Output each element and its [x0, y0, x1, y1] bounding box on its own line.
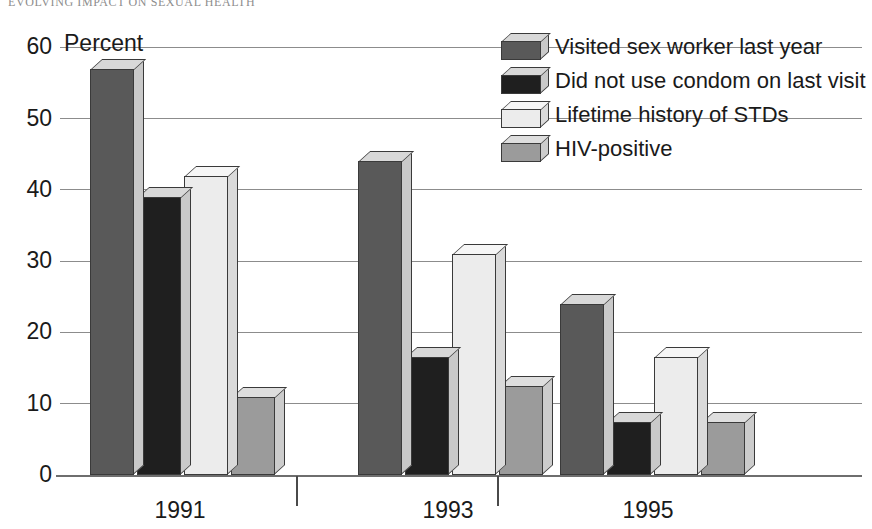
- bar-front-face: [560, 304, 604, 475]
- x-tick-label-1991: 1991: [154, 497, 205, 524]
- x-tick-label-1993: 1993: [422, 497, 473, 524]
- bar-side-face: [603, 294, 614, 475]
- legend-item-label: Visited sex worker last year: [555, 34, 822, 60]
- legend-item-label: Lifetime history of STDs: [555, 102, 789, 128]
- bar-1995-series-1: [560, 304, 604, 475]
- bar-front-face: [358, 161, 402, 475]
- y-tick-label: 20: [6, 320, 52, 343]
- bar-1993-series-1: [358, 161, 402, 475]
- legend-swatch-icon: [501, 75, 541, 94]
- bar-side-face: [274, 387, 285, 475]
- y-tick-label: 10: [6, 392, 52, 415]
- legend-swatch-front-face: [501, 75, 541, 94]
- legend-swatch-front-face: [501, 109, 541, 128]
- bar-side-face: [495, 244, 506, 475]
- x-tick-label-1995: 1995: [622, 497, 673, 524]
- y-tick-label: 0: [6, 463, 52, 486]
- legend-item-4: HIV-positive: [497, 132, 867, 166]
- legend-swatch-front-face: [501, 41, 541, 60]
- bar-side-face: [448, 347, 459, 475]
- legend-item-2: Did not use condom on last visit: [497, 64, 867, 98]
- bar-side-face: [697, 347, 708, 475]
- legend-item-1: Visited sex worker last year: [497, 30, 867, 64]
- legend-swatch-front-face: [501, 143, 541, 162]
- legend-item-3: Lifetime history of STDs: [497, 98, 867, 132]
- group-separator-tick: [497, 476, 499, 506]
- y-tick-label: 50: [6, 107, 52, 130]
- bar-1991-series-1: [90, 69, 134, 475]
- group-separator-tick: [296, 476, 298, 506]
- bar-side-face: [133, 59, 144, 475]
- legend-swatch-icon: [501, 41, 541, 60]
- y-axis-title: Percent: [64, 30, 143, 57]
- y-tick-label: 60: [6, 35, 52, 58]
- bar-side-face: [180, 187, 191, 475]
- y-tick-label: 30: [6, 249, 52, 272]
- bar-side-face: [227, 166, 238, 475]
- legend-swatch-icon: [501, 143, 541, 162]
- legend-item-label: Did not use condom on last visit: [555, 68, 866, 94]
- chart-page: EVOLVING IMPACT ON SEXUAL HEALTH 0102030…: [0, 0, 872, 529]
- legend-item-label: HIV-positive: [555, 136, 672, 162]
- legend-swatch-icon: [501, 109, 541, 128]
- bar-side-face: [401, 151, 412, 475]
- chart-legend: Visited sex worker last yearDid not use …: [497, 30, 867, 166]
- bar-side-face: [542, 376, 553, 475]
- bar-front-face: [90, 69, 134, 475]
- y-tick-label: 40: [6, 178, 52, 201]
